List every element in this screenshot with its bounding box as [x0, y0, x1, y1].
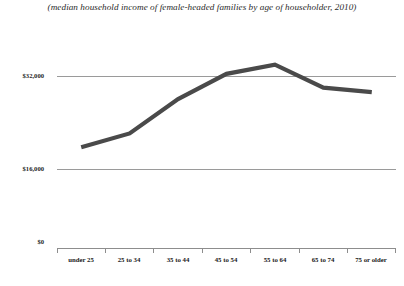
chart-title: (median household income of female-heade… — [0, 2, 404, 12]
line-series — [57, 28, 396, 248]
xtick-label-35-to-44: 35 to 44 — [167, 256, 190, 263]
xtick-mark — [153, 248, 154, 253]
xtick-mark — [250, 248, 251, 253]
xtick-mark — [347, 248, 348, 253]
xtick-mark — [299, 248, 300, 253]
ytick-label-0: $0 — [0, 238, 44, 245]
xtick-label-under-25: under 25 — [68, 256, 94, 263]
chart-container: (median household income of female-heade… — [0, 0, 404, 286]
xtick-mark — [105, 248, 106, 253]
xtick-label-65-to-74: 65 to 74 — [312, 256, 335, 263]
xtick-mark — [202, 248, 203, 253]
plot-area: $32,000 $16,000 $0 — [57, 28, 396, 248]
xtick-label-75-or-older: 75 or older — [355, 256, 387, 263]
x-axis: under 25 25 to 34 35 to 44 45 to 54 55 t… — [57, 248, 396, 282]
ytick-label-16000: $16,000 — [0, 165, 44, 172]
xtick-label-45-to-54: 45 to 54 — [215, 256, 238, 263]
xtick-label-55-to-64: 55 to 64 — [264, 256, 287, 263]
xtick-mark — [57, 248, 58, 253]
xtick-mark — [395, 248, 396, 253]
ytick-label-32000: $32,000 — [0, 72, 44, 79]
xtick-label-25-to-34: 25 to 34 — [118, 256, 141, 263]
